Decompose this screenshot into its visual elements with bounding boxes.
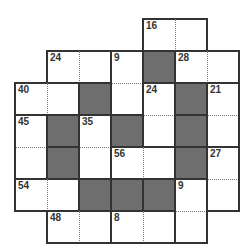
grid-line <box>174 18 208 20</box>
grid-line <box>46 146 80 148</box>
black-cell <box>47 147 79 179</box>
grid-line <box>46 146 48 180</box>
grid-line <box>78 242 112 244</box>
cage-sum-clue: 27 <box>210 148 221 160</box>
grid-line <box>142 114 144 148</box>
cage-sum-clue: 24 <box>146 84 157 96</box>
grid-line <box>110 50 144 52</box>
cage-divider <box>143 211 144 243</box>
black-cell <box>111 179 143 211</box>
grid-line <box>142 18 176 20</box>
grid-line <box>206 210 240 212</box>
grid-line <box>142 18 144 52</box>
grid-cell[interactable] <box>175 19 207 51</box>
grid-cell[interactable] <box>111 83 143 115</box>
grid-line <box>174 82 176 116</box>
cage-divider <box>207 51 208 83</box>
black-cell <box>79 179 111 211</box>
grid-line <box>142 82 144 116</box>
grid-line <box>110 178 112 212</box>
cage-sum-clue: 9 <box>178 180 184 192</box>
grid-line <box>46 50 80 52</box>
black-cell <box>47 115 79 147</box>
grid-line <box>110 210 144 212</box>
grid-cell[interactable] <box>207 115 239 147</box>
grid-cell[interactable] <box>207 51 239 83</box>
grid-line <box>238 178 240 212</box>
grid-line <box>142 178 176 180</box>
grid-line <box>14 146 16 180</box>
grid-line <box>110 178 144 180</box>
grid-line <box>238 50 240 84</box>
grid-line <box>174 242 208 244</box>
cage-sum-clue: 21 <box>210 84 221 96</box>
cage-sum-clue: 28 <box>178 52 189 64</box>
grid-line <box>110 146 144 148</box>
cage-divider <box>47 83 48 115</box>
grid-line <box>238 82 240 116</box>
grid-line <box>206 18 208 52</box>
grid-line <box>174 50 208 52</box>
cage-divider <box>111 83 143 84</box>
grid-line <box>142 50 144 84</box>
grid-cell[interactable] <box>47 83 79 115</box>
grid-cell[interactable] <box>79 211 111 243</box>
cage-sum-clue: 16 <box>146 20 157 32</box>
puzzle-grid: 162492840242145355627549488 <box>0 0 252 248</box>
grid-line <box>78 114 80 148</box>
grid-cell[interactable] <box>79 51 111 83</box>
grid-line <box>78 178 112 180</box>
grid-line <box>110 50 112 84</box>
grid-line <box>174 146 176 180</box>
grid-line <box>238 114 240 148</box>
cage-sum-clue: 35 <box>82 116 93 128</box>
black-cell <box>175 147 207 179</box>
grid-line <box>110 114 144 116</box>
grid-line <box>46 210 48 244</box>
grid-line <box>78 114 112 116</box>
grid-line <box>174 178 208 180</box>
grid-line <box>142 82 176 84</box>
black-cell <box>143 179 175 211</box>
grid-line <box>110 210 112 244</box>
cage-sum-clue: 9 <box>114 52 120 64</box>
cage-sum-clue: 54 <box>18 180 29 192</box>
grid-cell[interactable] <box>175 211 207 243</box>
cage-divider <box>175 211 207 212</box>
grid-line <box>206 82 240 84</box>
grid-cell[interactable] <box>79 147 111 179</box>
grid-line <box>110 242 144 244</box>
cage-sum-clue: 24 <box>50 52 61 64</box>
grid-cell[interactable] <box>143 147 175 179</box>
black-cell <box>143 51 175 83</box>
grid-line <box>46 114 80 116</box>
cage-sum-clue: 40 <box>18 84 29 96</box>
grid-line <box>142 146 176 148</box>
grid-line <box>46 210 80 212</box>
grid-line <box>174 114 176 148</box>
grid-cell[interactable] <box>143 211 175 243</box>
grid-line <box>206 114 208 148</box>
grid-cell[interactable] <box>47 179 79 211</box>
grid-cell[interactable] <box>15 147 47 179</box>
cage-sum-clue: 45 <box>18 116 29 128</box>
cage-divider <box>207 179 239 180</box>
grid-line <box>142 178 144 212</box>
grid-line <box>206 82 208 116</box>
grid-line <box>14 210 48 212</box>
grid-line <box>78 146 80 180</box>
grid-line <box>14 82 48 84</box>
grid-line <box>238 146 240 180</box>
black-cell <box>175 83 207 115</box>
grid-line <box>46 178 80 180</box>
grid-line <box>46 50 48 84</box>
grid-line <box>78 178 80 212</box>
grid-line <box>78 50 112 52</box>
grid-line <box>142 210 176 212</box>
grid-cell[interactable] <box>143 115 175 147</box>
grid-line <box>206 146 240 148</box>
grid-line <box>46 114 48 148</box>
cage-sum-clue: 48 <box>50 212 61 224</box>
grid-cell[interactable] <box>207 179 239 211</box>
cage-divider <box>79 51 80 83</box>
